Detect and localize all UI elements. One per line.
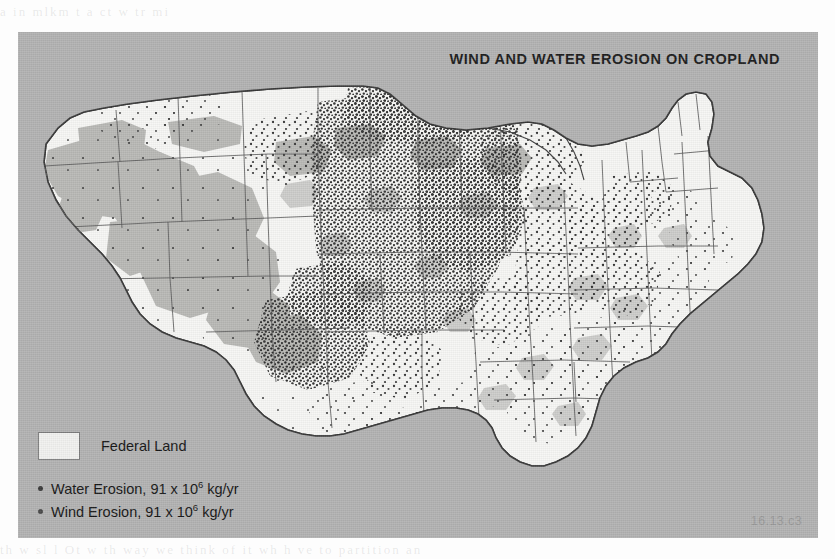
scanned-page: a in mlkm t a ct w tr mi bbox=[0, 0, 835, 559]
map-title: WIND AND WATER EROSION ON CROPLAND bbox=[450, 51, 780, 67]
federal-land-label: Federal Land bbox=[101, 438, 186, 454]
wind-erosion-label: Wind Erosion, 91 x 106 kg/yr bbox=[51, 502, 234, 520]
wind-erosion-dot-icon bbox=[38, 509, 43, 514]
map-figure-panel: WIND AND WATER EROSION ON CROPLAND Feder… bbox=[18, 32, 818, 538]
federal-land-swatch bbox=[38, 432, 80, 460]
water-erosion-label: Water Erosion, 91 x 106 kg/yr bbox=[51, 479, 239, 497]
legend-item-wind-erosion: Wind Erosion, 91 x 106 kg/yr bbox=[38, 502, 239, 520]
water-erosion-dot-icon bbox=[38, 486, 43, 491]
map-legend: Federal Land Water Erosion, 91 x 106 kg/… bbox=[38, 432, 239, 520]
page-bleedthrough-text-bottom: th w sl l Ot w th way we think of it wh … bbox=[0, 542, 835, 558]
legend-area-class-row: Federal Land bbox=[38, 432, 239, 460]
page-bleedthrough-text-top: a in mlkm t a ct w tr mi bbox=[0, 4, 835, 20]
figure-id-label: 16.13.c3 bbox=[751, 514, 802, 528]
legend-item-water-erosion: Water Erosion, 91 x 106 kg/yr bbox=[38, 479, 239, 497]
